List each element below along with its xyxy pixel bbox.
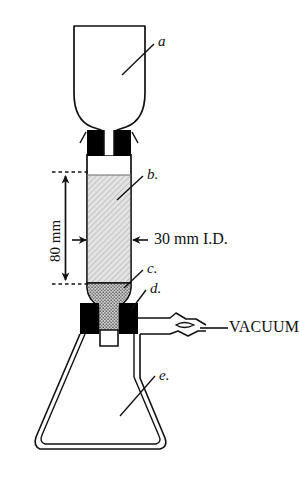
packed-bed-part-b: [87, 175, 131, 283]
label-part-c: c.: [147, 261, 157, 276]
label-part-a: a: [158, 34, 166, 49]
upper-stopper: [80, 130, 138, 156]
leader-line-e: [120, 376, 155, 416]
label-part-e: e.: [159, 368, 169, 383]
label-vacuum: VACUUM: [229, 319, 299, 335]
label-part-b: b.: [147, 167, 158, 182]
filtering-flask-part-e: [35, 334, 166, 449]
vacuum-side-arm: [138, 313, 228, 336]
label-height-dimension: 80 mm: [48, 220, 63, 262]
apparatus-diagram: [0, 0, 299, 502]
label-diameter-dimension: 30 mm I.D.: [154, 231, 228, 247]
leader-line-d: [131, 290, 146, 310]
label-part-d: d.: [150, 281, 161, 296]
reservoir-funnel-part-a: [74, 26, 145, 136]
figure-root: a b. c. d. e. 80 mm 30 mm I.D. VACUUM: [0, 0, 299, 502]
